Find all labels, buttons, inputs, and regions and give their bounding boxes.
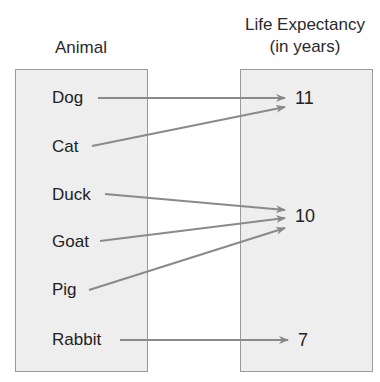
mapping-arrows <box>0 0 380 382</box>
arrow-duck-10 <box>105 194 285 210</box>
arrow-cat-11 <box>92 107 285 146</box>
arrow-pig-10 <box>89 228 285 290</box>
